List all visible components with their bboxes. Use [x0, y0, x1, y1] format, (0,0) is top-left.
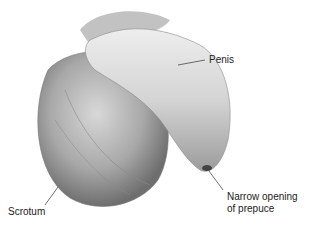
label-scrotum: Scrotum	[8, 206, 45, 218]
label-opening-line2: of prepuce	[227, 203, 274, 215]
scrotum-leader	[45, 187, 58, 205]
prepuce-opening	[202, 165, 212, 171]
label-opening-line1: Narrow opening	[227, 191, 298, 203]
label-penis: Penis	[209, 54, 234, 66]
opening-leader	[209, 171, 223, 190]
